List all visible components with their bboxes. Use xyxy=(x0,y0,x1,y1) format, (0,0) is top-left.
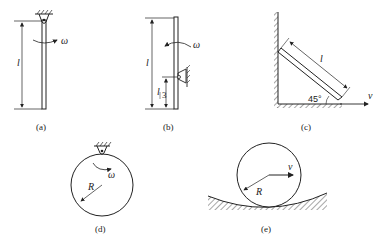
figure-d: ω R (d) xyxy=(71,142,133,234)
figure-b: l l 3 ω (b) xyxy=(145,17,200,132)
rod xyxy=(42,20,46,109)
velocity-label: v xyxy=(288,161,293,172)
wall-hatch xyxy=(274,12,278,108)
floor-hatch xyxy=(276,104,342,108)
omega-label: ω xyxy=(108,169,115,180)
ceiling-support-icon xyxy=(35,10,53,24)
side-pivot-support-icon xyxy=(178,65,191,87)
ceiling-support-icon xyxy=(94,142,111,155)
angular-velocity-arrow-icon xyxy=(33,40,57,43)
caption: (b) xyxy=(163,122,174,132)
length-label: l xyxy=(17,57,20,68)
offset-label-denominator: 3 xyxy=(162,90,167,100)
length-dimension xyxy=(290,42,347,88)
caption: (e) xyxy=(261,224,271,234)
figure-a: l ω (a) xyxy=(14,10,68,132)
inclined-rod xyxy=(278,48,342,100)
radius-label: R xyxy=(255,186,262,197)
caption: (a) xyxy=(36,122,46,132)
offset-label-numerator: l xyxy=(157,86,160,97)
figure-e: v R (e) xyxy=(208,143,327,234)
radius-label: R xyxy=(87,181,94,192)
caption: (d) xyxy=(95,224,106,234)
omega-label: ω xyxy=(61,35,68,46)
length-label: l xyxy=(146,57,149,68)
caption: (c) xyxy=(301,122,311,132)
diagram-canvas: l ω (a) l l 3 ω (b) xyxy=(0,0,380,243)
figure-c: l 45° v (c) xyxy=(274,12,373,132)
rod xyxy=(174,17,178,109)
angle-label: 45° xyxy=(308,94,322,104)
velocity-label: v xyxy=(368,90,373,101)
length-label: l xyxy=(320,53,323,64)
omega-label: ω xyxy=(193,39,200,50)
